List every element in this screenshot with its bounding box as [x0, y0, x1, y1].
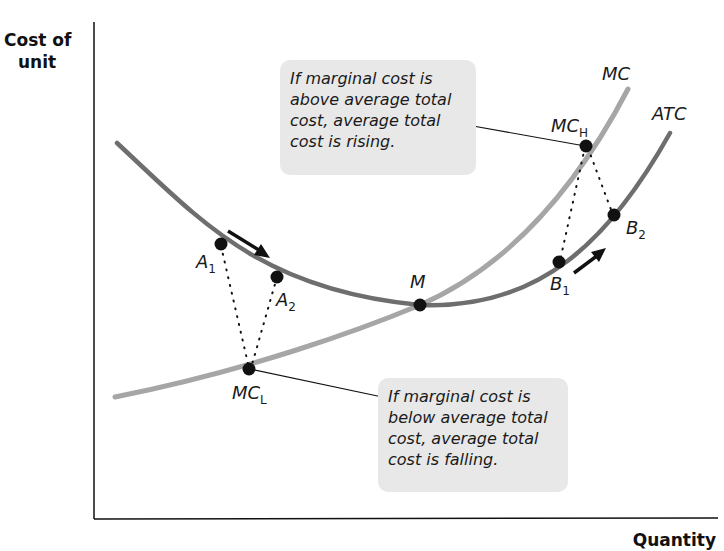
callout-above-line3: cost, average total — [290, 110, 466, 131]
callout-below-line2: below average total — [388, 407, 558, 428]
point-a1-label: A1 — [195, 251, 216, 276]
point-mc-h-label: MCH — [551, 115, 588, 140]
x-axis-label: Quantity — [633, 530, 716, 550]
point-b2 — [608, 209, 621, 222]
point-mc-l — [243, 363, 256, 376]
callout-above-line4: cost is rising. — [290, 131, 466, 152]
point-a2-label: A2 — [275, 289, 296, 314]
point-b1 — [553, 256, 566, 269]
callout-below-line3: cost, average total — [388, 428, 558, 449]
x-axis — [94, 518, 718, 519]
dotted-guides — [221, 147, 613, 368]
point-b1-label: B1 — [550, 273, 570, 298]
callout-below-line4: cost is falling. — [388, 449, 558, 470]
point-mc-h — [580, 140, 593, 153]
callout-above: If marginal cost is above average total … — [280, 60, 476, 175]
point-a1 — [215, 238, 228, 251]
y-axis-label-line2: unit — [18, 52, 56, 72]
mc-curve-label: MC — [602, 63, 631, 84]
callout-below-leader — [250, 369, 387, 398]
callout-below-line1: If marginal cost is — [388, 386, 558, 407]
y-axis-label-line1: Cost of — [4, 30, 72, 50]
callout-above-line2: above average total — [290, 89, 466, 110]
point-a2 — [271, 271, 284, 284]
point-m — [414, 299, 427, 312]
atc-curve-label: ATC — [651, 103, 687, 124]
point-m-label: M — [410, 271, 426, 292]
point-b2-label: B2 — [626, 217, 646, 242]
callout-above-line1: If marginal cost is — [290, 68, 466, 89]
callout-below: If marginal cost is below average total … — [378, 378, 568, 492]
point-mc-l-label: MCL — [232, 382, 267, 407]
